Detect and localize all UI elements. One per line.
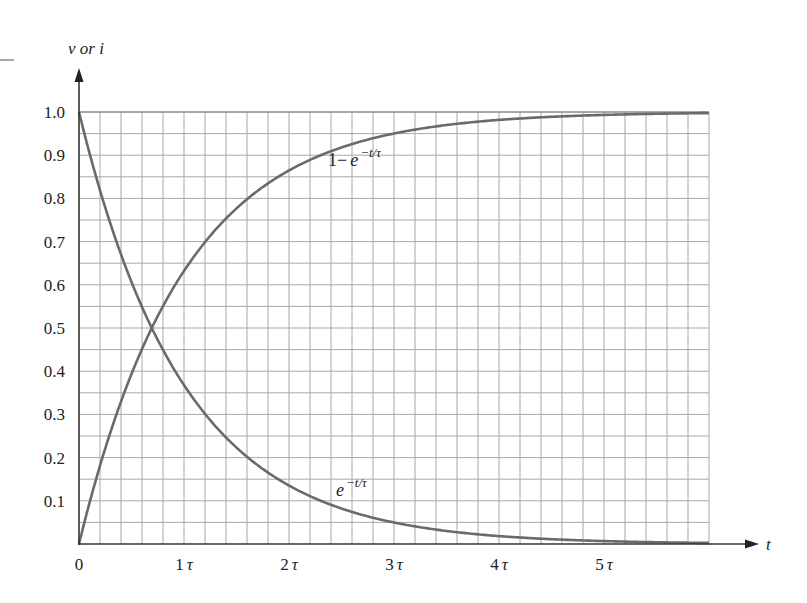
time-constant-chart: 0.10.20.30.40.50.60.70.80.91.0 01τ2τ3τ4τ… bbox=[0, 0, 807, 603]
x-tick-label: 4τ bbox=[490, 555, 509, 574]
x-tick-label: 0 bbox=[75, 555, 84, 574]
y-axis-label: v or i bbox=[68, 39, 104, 58]
y-tick-labels: 0.10.20.30.40.50.60.70.80.91.0 bbox=[44, 103, 66, 511]
y-tick-label: 1.0 bbox=[44, 103, 65, 122]
y-tick-label: 0.5 bbox=[44, 319, 65, 338]
grid bbox=[79, 112, 709, 544]
y-tick-label: 0.2 bbox=[44, 449, 65, 468]
x-tick-label: 3τ bbox=[385, 555, 404, 574]
x-axis-arrow-icon bbox=[745, 540, 759, 549]
x-tick-label: 1τ bbox=[175, 555, 194, 574]
y-tick-label: 0.8 bbox=[44, 189, 65, 208]
y-tick-label: 0.6 bbox=[44, 276, 65, 295]
x-axis-label: t bbox=[766, 535, 772, 554]
axes bbox=[75, 68, 760, 549]
x-tick-label: 2τ bbox=[280, 555, 299, 574]
y-tick-label: 0.7 bbox=[44, 233, 66, 252]
y-tick-label: 0.3 bbox=[44, 405, 65, 424]
y-tick-label: 0.1 bbox=[44, 492, 65, 511]
x-tick-label: 5τ bbox=[595, 555, 614, 574]
y-tick-label: 0.9 bbox=[44, 146, 65, 165]
y-axis-arrow-icon bbox=[75, 68, 84, 82]
y-tick-label: 0.4 bbox=[44, 362, 66, 381]
x-tick-labels: 01τ2τ3τ4τ5τ bbox=[75, 555, 614, 574]
